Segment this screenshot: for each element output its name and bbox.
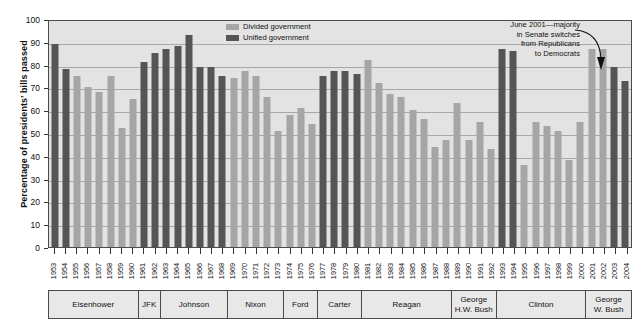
year-tick-mark xyxy=(520,248,531,255)
year-label-slot: 1955 xyxy=(70,255,81,289)
president-band-cell: JFK xyxy=(139,291,161,318)
year-label-slot: 1957 xyxy=(93,255,104,289)
year-tick-mark xyxy=(419,248,430,255)
bar xyxy=(566,160,573,247)
legend-label-unified: Unified government xyxy=(243,33,309,42)
bar-slot xyxy=(116,21,127,247)
year-label-slot: 1985 xyxy=(408,255,419,289)
y-axis-tick-label: 50 xyxy=(6,130,40,138)
annotation-text: June 2001—majority in Senate switches fr… xyxy=(448,20,580,58)
year-label-slot: 1953 xyxy=(48,255,59,289)
y-axis-tick-label: 80 xyxy=(6,62,40,70)
year-axis-tick-label: 2002 xyxy=(600,263,608,279)
bar xyxy=(555,131,562,247)
year-tick-mark xyxy=(48,248,59,255)
y-axis-tick-label: 100 xyxy=(6,16,40,24)
bar xyxy=(499,49,506,247)
bar xyxy=(622,81,629,247)
year-tick-mark xyxy=(273,248,284,255)
year-label-slot: 1993 xyxy=(497,255,508,289)
bar xyxy=(107,76,114,247)
year-tick-mark xyxy=(509,248,520,255)
bar-slot xyxy=(284,21,295,247)
year-axis-tick-label: 2004 xyxy=(623,263,631,279)
year-label-slot: 1961 xyxy=(138,255,149,289)
year-axis-tick-label: 1994 xyxy=(510,263,518,279)
year-tick-mark xyxy=(587,248,598,255)
bar xyxy=(129,99,136,247)
year-label-slot: 1969 xyxy=(228,255,239,289)
legend-item-unified: Unified government xyxy=(226,33,311,42)
president-band-cell: Carter xyxy=(318,291,363,318)
year-label-slot: 1980 xyxy=(351,255,362,289)
year-tick-mark xyxy=(104,248,115,255)
bar-slot xyxy=(239,21,250,247)
bar xyxy=(543,126,550,247)
bar xyxy=(197,67,204,247)
year-axis-tick-label: 2000 xyxy=(578,263,586,279)
year-tick-mark xyxy=(576,248,587,255)
year-tick-mark xyxy=(475,248,486,255)
year-tick-marks xyxy=(48,248,632,255)
year-label-slot: 1976 xyxy=(306,255,317,289)
president-band-cell: Clinton xyxy=(497,291,587,318)
bar xyxy=(264,97,271,247)
bar xyxy=(73,76,80,247)
presidential-success-chart: Percentage of presidents' bills passed 1… xyxy=(0,0,636,321)
year-tick-mark xyxy=(295,248,306,255)
president-name-label: Clinton xyxy=(528,300,553,310)
year-tick-mark xyxy=(452,248,463,255)
year-label-slot: 1973 xyxy=(273,255,284,289)
bar xyxy=(610,67,617,247)
year-tick-mark xyxy=(205,248,216,255)
bar xyxy=(342,71,349,247)
year-axis-tick-label: 2001 xyxy=(589,263,597,279)
bar xyxy=(286,115,293,247)
bar-slot xyxy=(273,21,284,247)
bar-slot xyxy=(161,21,172,247)
president-name-label: GeorgeW. Bush xyxy=(594,295,624,315)
year-tick-mark xyxy=(430,248,441,255)
year-tick-mark xyxy=(464,248,475,255)
president-band-cell: Ford xyxy=(284,291,318,318)
year-axis-tick-label: 1967 xyxy=(207,263,215,279)
year-axis-tick-label: 1998 xyxy=(555,263,563,279)
year-tick-mark xyxy=(250,248,261,255)
year-axis-tick-label: 1985 xyxy=(409,263,417,279)
bar xyxy=(376,83,383,247)
bar-slot xyxy=(94,21,105,247)
year-label-slot: 1962 xyxy=(149,255,160,289)
year-label-slot: 1988 xyxy=(441,255,452,289)
annotation-line-4: to Democrats xyxy=(448,49,580,59)
bar-slot xyxy=(306,21,317,247)
year-label-slot: 1982 xyxy=(374,255,385,289)
year-label-slot: 1984 xyxy=(396,255,407,289)
year-axis-tick-label: 1966 xyxy=(196,263,204,279)
year-axis-tick-label: 1980 xyxy=(353,263,361,279)
year-axis-tick-label: 1968 xyxy=(218,263,226,279)
year-axis-labels: 1953195419551956195719581959196019611962… xyxy=(48,255,632,289)
bar xyxy=(364,60,371,247)
year-tick-mark xyxy=(340,248,351,255)
bar xyxy=(118,128,125,247)
president-name-label: GeorgeH.W. Bush xyxy=(455,295,493,315)
bar xyxy=(208,67,215,247)
year-label-slot: 1981 xyxy=(363,255,374,289)
y-axis-tick-label: 90 xyxy=(6,39,40,47)
bar-slot xyxy=(295,21,306,247)
year-axis-tick-label: 1965 xyxy=(184,263,192,279)
year-label-slot: 1987 xyxy=(430,255,441,289)
year-tick-mark xyxy=(374,248,385,255)
bar-slot xyxy=(206,21,217,247)
bar-slot xyxy=(262,21,273,247)
year-axis-tick-label: 1978 xyxy=(330,263,338,279)
year-label-slot: 1967 xyxy=(205,255,216,289)
president-name-label: Reagan xyxy=(393,300,421,310)
year-tick-mark xyxy=(497,248,508,255)
bar-slot xyxy=(340,21,351,247)
year-label-slot: 1979 xyxy=(340,255,351,289)
year-axis-tick-label: 1963 xyxy=(162,263,170,279)
bar xyxy=(443,140,450,247)
year-label-slot: 1991 xyxy=(475,255,486,289)
year-label-slot: 1960 xyxy=(127,255,138,289)
